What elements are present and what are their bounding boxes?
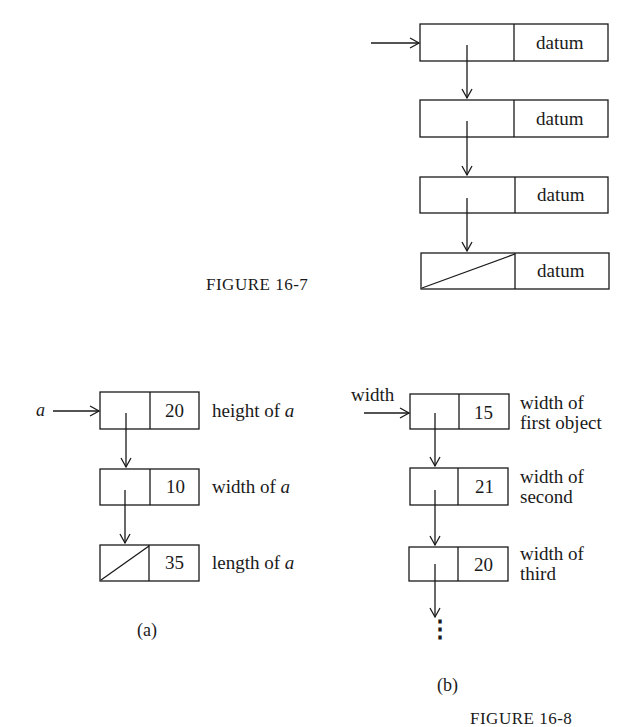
figure-caption: FIGURE 16-7 (206, 276, 308, 293)
node-description: width of a (212, 477, 290, 497)
node-description: length of a (212, 553, 294, 573)
desc-line: first object (520, 413, 602, 433)
figure-caption: FIGURE 16-8 (470, 710, 572, 727)
node-datum-label: datum (536, 109, 584, 128)
head-pointer-label: width (351, 385, 394, 405)
node-description: width of first object (520, 393, 602, 433)
node-value: 15 (474, 403, 493, 422)
null-pointer-slash (101, 546, 149, 580)
node-description: height of a (212, 401, 294, 421)
node-value: 35 (165, 553, 184, 572)
figure-16-8b-diagram (364, 394, 509, 617)
continuation-ellipsis-icon: ⋮ (428, 617, 452, 641)
node-datum-label: datum (537, 185, 585, 204)
node-value: 20 (474, 555, 493, 574)
subfigure-label-b: (b) (437, 676, 458, 694)
null-pointer-slash (422, 254, 515, 288)
node-value: 21 (475, 477, 494, 496)
desc-line: second (520, 487, 584, 507)
desc-line: width of (520, 544, 584, 564)
node-datum-label: datum (537, 261, 585, 280)
node-datum-label: datum (536, 33, 584, 52)
node-description: width of second (520, 467, 584, 507)
desc-line: width of (520, 393, 602, 413)
desc-line: third (520, 564, 584, 584)
figure-16-7-diagram (371, 24, 609, 289)
node-value: 10 (166, 477, 185, 496)
head-pointer-label: a (36, 401, 45, 419)
desc-line: width of (520, 467, 584, 487)
subfigure-label-a: (a) (137, 621, 157, 639)
node-description: width of third (520, 544, 584, 584)
node-value: 20 (165, 401, 184, 420)
